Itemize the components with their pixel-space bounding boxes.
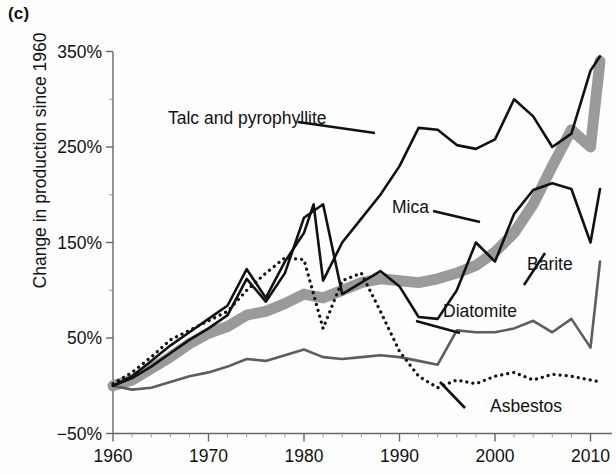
x-tick-label: 2010 (571, 446, 610, 466)
leader-line-mica (433, 211, 480, 222)
leader-line-asbestos (440, 382, 465, 408)
x-tick-label: 1980 (285, 446, 324, 466)
y-tick-label: 50% (67, 328, 102, 348)
leader-line-diatomite (416, 321, 460, 333)
annotation-mica: Mica (392, 197, 429, 217)
x-tick-label: 1990 (380, 446, 419, 466)
chart-canvas: 350%250%150%50%−50%196019701980199020002… (0, 0, 616, 474)
y-tick-label: 250% (57, 137, 102, 157)
x-tick-label: 1970 (189, 446, 228, 466)
annotation-diatomite: Diatomite (443, 301, 517, 321)
annotation-asbestos: Asbestos (490, 396, 562, 416)
y-tick-label: 150% (57, 233, 102, 253)
annotation-talc-and-pyrophyllite: Talc and pyrophyllite (168, 108, 327, 128)
x-tick-label: 1960 (94, 446, 133, 466)
y-tick-label: 350% (57, 42, 102, 62)
chart-series (113, 56, 600, 389)
figure-panel: (c) Change in production since 1960 350%… (0, 0, 616, 474)
y-tick-label: −50% (57, 424, 102, 444)
chart-annotations: Talc and pyrophylliteMicaBariteDiatomite… (168, 108, 573, 416)
x-tick-label: 2000 (476, 446, 515, 466)
